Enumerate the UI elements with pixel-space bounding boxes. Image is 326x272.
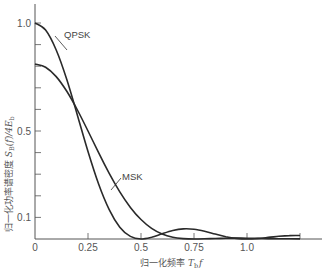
- y-tick-label: 0.1: [17, 212, 31, 223]
- x-tick-label: 0: [32, 242, 38, 253]
- qpsk-label: QPSK: [64, 29, 91, 40]
- x-tick-label: 0.75: [184, 242, 204, 253]
- msk-curve: [35, 64, 300, 239]
- y-axis-title: 归一化功率谱密度 SB(f)/4Eb: [3, 116, 16, 232]
- qpsk-curve: [35, 23, 300, 239]
- msk-label: MSK: [122, 171, 143, 182]
- tick-labels: 0.10.51.000.250.50.751.0: [17, 18, 254, 254]
- y-tick-label: 1.0: [17, 18, 31, 29]
- x-tick-label: 0.25: [78, 242, 98, 253]
- curves: [35, 23, 300, 239]
- y-tick-label: 0.5: [17, 126, 31, 137]
- x-tick-label: 0.5: [134, 242, 148, 253]
- x-tick-label: 1.0: [240, 242, 254, 253]
- x-axis-title: 归一化频率 Tbf: [140, 257, 204, 270]
- psd-chart: 0.10.51.000.250.50.751.0 QPSK MSK 归一化频率 …: [0, 0, 326, 272]
